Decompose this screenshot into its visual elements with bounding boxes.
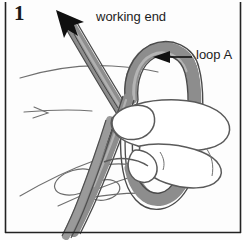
loop-a-label: loop A: [196, 48, 232, 61]
working-end-label: working end: [96, 10, 166, 23]
rope-strand-secondary: [62, 120, 115, 238]
knot-diagram-figure: 1 working end loop A: [0, 0, 250, 240]
step-number: 1: [14, 3, 25, 24]
hand-outline: [104, 100, 230, 188]
knot-illustration: [0, 0, 250, 240]
